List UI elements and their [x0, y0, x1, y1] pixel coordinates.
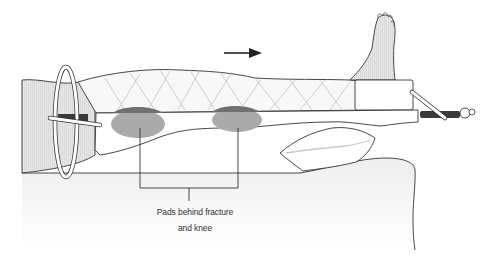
caption-line-1: Pads behind fracture — [140, 204, 250, 220]
pads-caption: Pads behind fracture and knee — [140, 204, 250, 236]
pad-knee — [212, 106, 262, 132]
foot — [350, 13, 395, 80]
traction-splint-diagram: Pads behind fracture and knee — [0, 0, 502, 265]
pad-fracture — [111, 107, 165, 138]
foot-block — [355, 80, 413, 110]
illustration — [0, 0, 502, 265]
traction-direction-arrow-icon — [224, 48, 262, 58]
bandaged-leg — [78, 70, 372, 114]
caption-line-2: and knee — [140, 220, 250, 236]
